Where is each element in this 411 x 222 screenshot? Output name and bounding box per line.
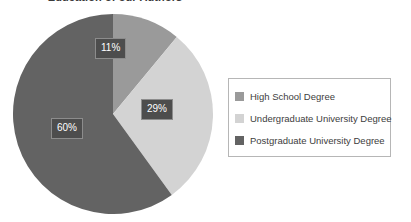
page-title: Education of our Authors xyxy=(0,0,230,3)
legend-item-undergraduate-university-degree[interactable]: Undergraduate University Degree xyxy=(235,107,390,129)
chart-legend: High School DegreeUndergraduate Universi… xyxy=(228,78,391,157)
legend-item-postgraduate-university-degree[interactable]: Postgraduate University Degree xyxy=(235,129,390,151)
legend-item-high-school-degree[interactable]: High School Degree xyxy=(235,85,390,107)
pie-slice-label-high-school: 11% xyxy=(95,38,126,59)
legend-item-label: Postgraduate University Degree xyxy=(250,135,385,146)
legend-swatch-icon xyxy=(235,92,244,101)
pie-slice-label-postgraduate: 60% xyxy=(51,118,83,139)
legend-item-label: High School Degree xyxy=(250,91,335,102)
pie-slice-label-undergraduate: 29% xyxy=(141,99,173,120)
legend-swatch-icon xyxy=(235,114,244,123)
legend-item-label: Undergraduate University Degree xyxy=(250,113,392,124)
legend-swatch-icon xyxy=(235,136,244,145)
